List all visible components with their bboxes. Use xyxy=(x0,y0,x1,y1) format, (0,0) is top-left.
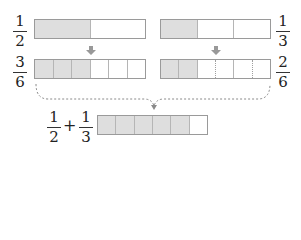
denominator: 3 xyxy=(81,130,91,145)
numerator: 1 xyxy=(49,110,59,125)
strip-cell xyxy=(189,116,207,134)
denominator: 2 xyxy=(49,130,59,145)
strip-cell-shaded xyxy=(98,116,115,134)
plus-sign: + xyxy=(63,118,76,134)
numerator: 1 xyxy=(81,110,91,125)
strip-cell-shaded xyxy=(170,116,188,134)
strip-cell-shaded xyxy=(115,116,133,134)
strip-cell-shaded xyxy=(134,116,152,134)
strip-sum xyxy=(97,115,208,135)
fraction-sum-b: 1 3 xyxy=(79,110,93,145)
fraction-sum-a: 1 2 xyxy=(47,110,61,145)
strip-cell-shaded xyxy=(152,116,170,134)
